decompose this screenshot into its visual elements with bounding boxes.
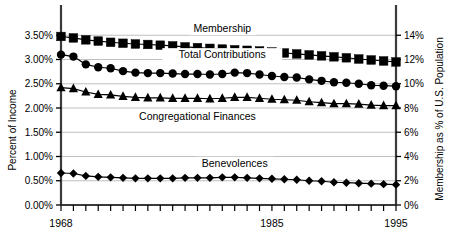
data-point: [156, 93, 165, 102]
series-label-benevolences: Benevolences: [202, 157, 268, 169]
data-point: [230, 92, 239, 101]
series-label-membership: Membership: [193, 22, 251, 34]
data-point: [367, 56, 376, 65]
data-point: [57, 50, 65, 58]
data-point: [392, 82, 400, 90]
left-axis-tick-label: 3.00%: [25, 54, 53, 65]
data-point: [168, 174, 176, 182]
right-axis-group: 0%2%4%6%8%10%12%14%: [396, 5, 424, 211]
right-axis-tick-label: 2%: [404, 175, 419, 186]
data-point: [69, 34, 78, 43]
x-axis-tick-label: 1995: [384, 217, 408, 229]
right-axis-tick-label: 4%: [404, 151, 419, 162]
data-point: [243, 69, 251, 77]
data-point: [144, 69, 152, 77]
data-point: [330, 178, 338, 186]
data-point: [180, 93, 189, 102]
data-point: [106, 90, 115, 99]
data-point: [367, 81, 375, 89]
data-point: [94, 37, 103, 46]
left-axis-tick-label: 0.00%: [25, 200, 53, 211]
data-point: [391, 101, 400, 110]
data-point: [193, 93, 202, 102]
data-point: [57, 32, 66, 41]
data-point: [106, 38, 115, 47]
x-axis-tick-label: 1968: [49, 217, 73, 229]
data-point: [354, 55, 363, 64]
right-axis-tick-label: 12%: [404, 54, 424, 65]
series-benevolences: [57, 169, 400, 189]
left-axis-title: Percent of Income: [7, 89, 18, 171]
data-point: [131, 68, 139, 76]
data-point: [231, 68, 239, 76]
data-point: [342, 79, 350, 87]
data-point: [131, 40, 140, 49]
data-point: [330, 78, 338, 86]
data-point: [292, 50, 301, 59]
data-point: [255, 174, 263, 182]
data-point: [82, 172, 90, 180]
data-point: [305, 75, 313, 83]
data-point: [355, 179, 363, 187]
data-point: [379, 101, 388, 110]
data-point: [268, 72, 276, 80]
data-point: [293, 176, 301, 184]
right-axis-tick-label: 8%: [404, 103, 419, 114]
data-point: [330, 53, 339, 62]
data-point: [255, 70, 263, 78]
data-point: [119, 67, 127, 75]
data-point: [131, 174, 139, 182]
data-point: [119, 39, 128, 48]
data-point: [144, 174, 152, 182]
left-axis-tick-label: 0.50%: [25, 175, 53, 186]
data-point: [106, 64, 114, 72]
left-axis-tick-label: 1.50%: [25, 127, 53, 138]
right-axis-tick-label: 6%: [404, 127, 419, 138]
data-point: [156, 174, 164, 182]
series-congregational-finances: [56, 83, 400, 110]
data-point: [379, 57, 388, 66]
data-point: [193, 70, 201, 78]
chart-container: 0.00%0.50%1.00%1.50%2.00%2.50%3.00%3.50%…: [0, 0, 451, 238]
data-point: [305, 177, 313, 185]
data-point: [379, 81, 387, 89]
right-axis-tick-label: 0%: [404, 200, 419, 211]
left-axis-tick-label: 3.50%: [25, 30, 53, 41]
data-point: [243, 92, 252, 101]
data-point: [317, 177, 325, 185]
right-axis-title: Membership as % of U.S. Population: [434, 37, 445, 200]
data-point: [218, 70, 226, 78]
data-point: [305, 51, 314, 60]
data-point: [392, 180, 400, 188]
right-axis-tick-label: 10%: [404, 78, 424, 89]
data-point: [268, 175, 276, 183]
data-point: [354, 99, 363, 108]
data-point: [205, 94, 214, 103]
data-point: [292, 95, 301, 104]
data-point: [69, 52, 77, 60]
data-point: [143, 93, 152, 102]
data-point: [355, 80, 363, 88]
x-axis-group: 196819851995: [49, 205, 408, 229]
data-point: [293, 73, 301, 81]
data-point: [156, 69, 164, 77]
series-label-total-contributions: Total Contributions: [179, 48, 266, 60]
data-point: [57, 169, 65, 177]
data-point: [342, 99, 351, 108]
data-point: [94, 63, 102, 71]
left-axis-group: 0.00%0.50%1.00%1.50%2.00%2.50%3.00%3.50%: [25, 5, 61, 211]
data-point: [379, 180, 387, 188]
data-point: [144, 40, 153, 49]
data-point: [94, 173, 102, 181]
data-point: [392, 58, 401, 67]
data-point: [206, 70, 214, 78]
x-axis-tick-label: 1985: [260, 217, 284, 229]
left-axis-tick-label: 2.50%: [25, 78, 53, 89]
data-point: [280, 175, 288, 183]
data-point: [82, 36, 91, 45]
data-point: [280, 73, 288, 81]
data-point: [168, 69, 176, 77]
data-point: [69, 169, 77, 177]
data-point: [82, 60, 90, 68]
right-axis-tick-label: 14%: [404, 30, 424, 41]
